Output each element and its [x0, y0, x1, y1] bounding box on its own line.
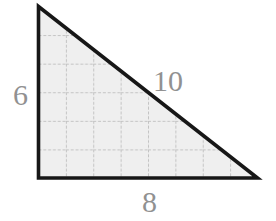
triangle-figure: 6 10 8	[0, 0, 276, 221]
hypotenuse-label: 10	[153, 64, 183, 97]
horizontal-leg-label: 8	[142, 185, 157, 218]
triangle-diagram: 6 10 8	[0, 0, 276, 221]
vertical-leg-label: 6	[13, 78, 28, 111]
